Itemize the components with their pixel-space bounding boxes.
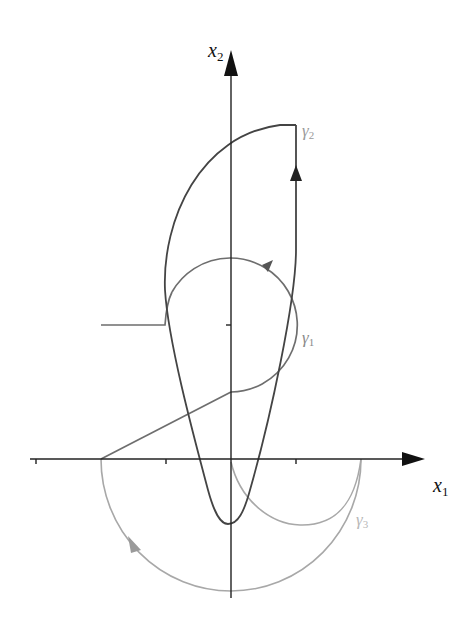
gamma1-curve <box>101 258 297 459</box>
x1-axis-label: x1 <box>432 474 448 499</box>
x2-axis-arrow-icon <box>224 50 238 76</box>
gamma2-label: γ2 <box>302 121 314 141</box>
x1-axis-arrow-icon <box>402 452 425 466</box>
gamma3-label: γ3 <box>356 510 369 530</box>
phase-plane-diagram: x2 x1 γ2 γ1 γ3 <box>0 0 475 626</box>
gamma1-arrow-icon <box>262 260 273 272</box>
x2-axis-label: x2 <box>207 39 223 64</box>
gamma3-arrow-icon <box>128 536 141 553</box>
axes <box>30 70 405 598</box>
gamma1-label: γ1 <box>302 328 314 348</box>
gamma2-arrow-icon <box>290 165 302 181</box>
